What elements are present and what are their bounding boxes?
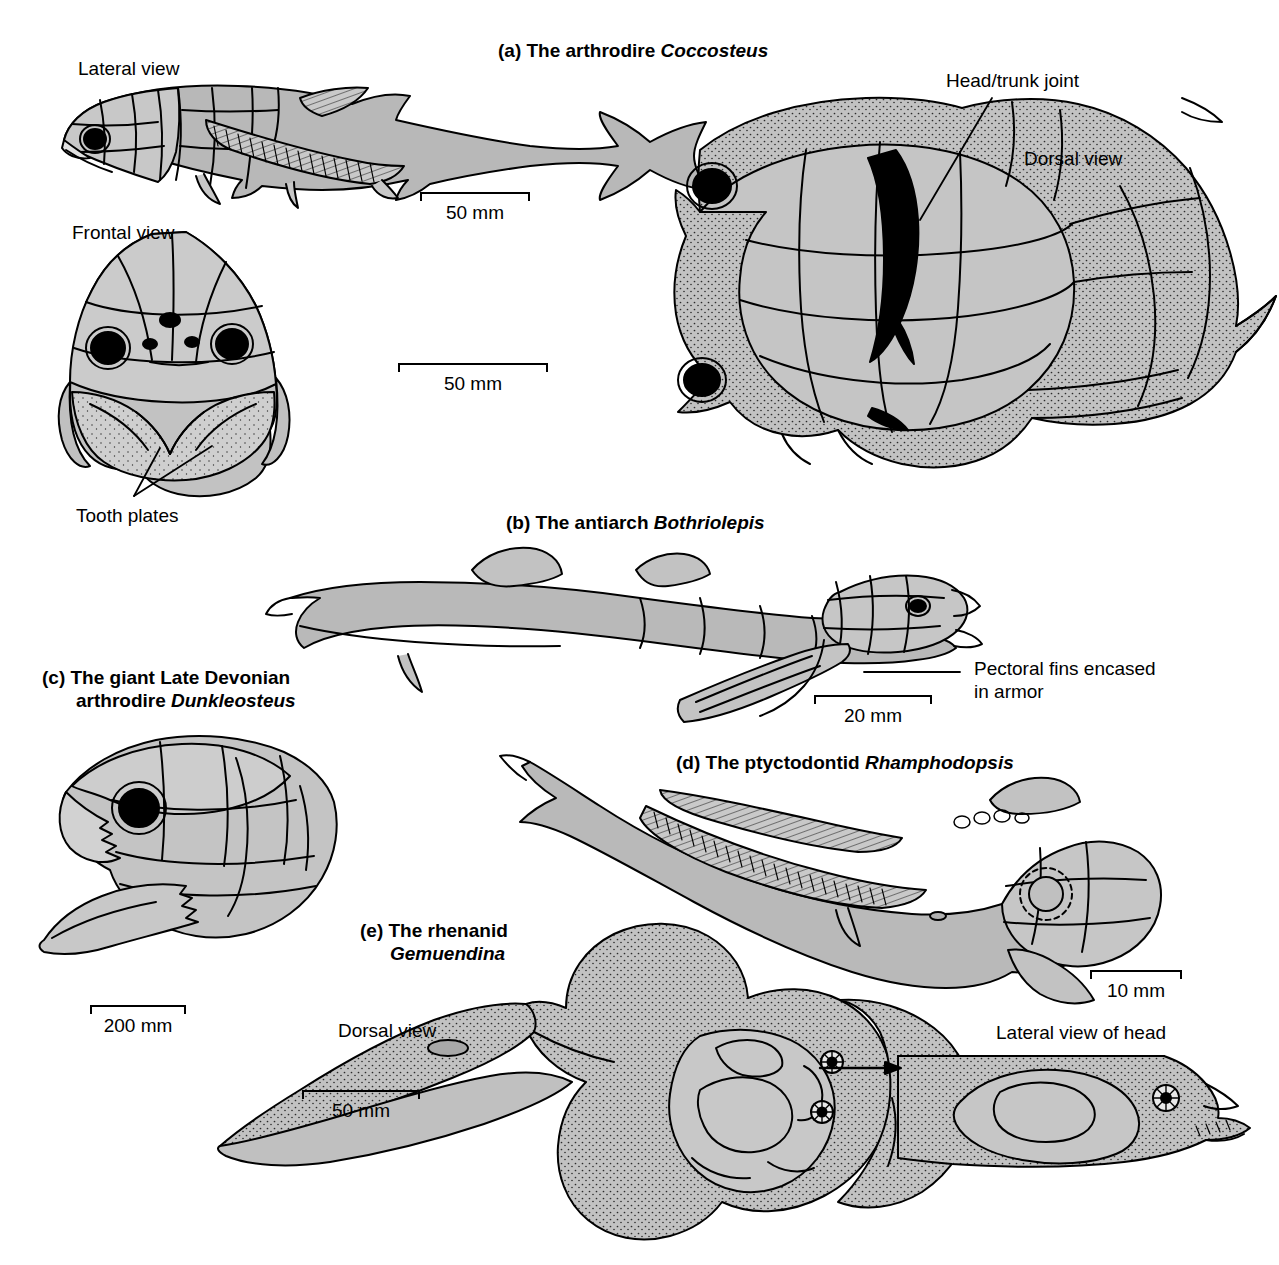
panel-e-taxon: Gemuendina [390, 943, 505, 964]
scalebar-e-bar [302, 1090, 420, 1099]
coccosteus-lateral-illustration [62, 86, 706, 208]
panel-c-title-line2: arthrodire Dunkleosteus [76, 690, 296, 712]
label-a-lateral-view: Lateral view [78, 58, 179, 80]
scalebar-a-dorsal: 50 mm [398, 363, 548, 395]
gemuendina-illustration [218, 924, 972, 1240]
panel-c-title-prefix: arthrodire [76, 690, 171, 711]
rhamphodopsis-illustration [500, 755, 1161, 1003]
scalebar-d-label: 10 mm [1090, 980, 1182, 1002]
panel-d-taxon: Rhamphodopsis [865, 752, 1014, 773]
figure-artwork [0, 0, 1279, 1265]
label-head-trunk-joint: Head/trunk joint [946, 70, 1079, 92]
panel-e-title-line1: (e) The rhenanid [360, 920, 508, 942]
scalebar-c-label: 200 mm [90, 1015, 186, 1037]
label-e-lateral-head: Lateral view of head [996, 1022, 1166, 1044]
scalebar-a-dorsal-label: 50 mm [398, 373, 548, 395]
label-pectoral-fins-line1: Pectoral fins encased [974, 658, 1156, 680]
coccosteus-dorsal-illustration [674, 98, 1276, 468]
annotation-leader-lines [134, 98, 992, 672]
dunkleosteus-illustration [40, 736, 337, 954]
scalebar-b: 20 mm [814, 695, 932, 727]
panel-a-title-prefix: (a) The arthrodire [498, 40, 661, 61]
scalebar-c: 200 mm [90, 1005, 186, 1037]
gemuendina-head-lateral-illustration [898, 1056, 1250, 1167]
scalebar-e: 50 mm [302, 1090, 420, 1122]
scalebar-a-lateral-bar [420, 192, 530, 201]
scalebar-d: 10 mm [1090, 970, 1182, 1002]
panel-d-title-prefix: (d) The ptyctodontid [676, 752, 865, 773]
label-pectoral-fins-line2: in armor [974, 681, 1044, 703]
panel-e-title-line2: Gemuendina [390, 943, 505, 965]
coccosteus-frontal-illustration [59, 232, 290, 496]
panel-b-title: (b) The antiarch Bothriolepis [506, 512, 765, 534]
scalebar-b-label: 20 mm [814, 705, 932, 727]
label-tooth-plates: Tooth plates [76, 505, 178, 527]
scalebar-a-lateral-label: 50 mm [420, 202, 530, 224]
panel-a-title: (a) The arthrodire Coccosteus [498, 40, 768, 62]
arrow-to-lateral-head [820, 1062, 901, 1074]
panel-b-taxon: Bothriolepis [654, 512, 765, 533]
panel-c-taxon: Dunkleosteus [171, 690, 296, 711]
panel-d-title: (d) The ptyctodontid Rhamphodopsis [676, 752, 1014, 774]
panel-c-title-line1: (c) The giant Late Devonian [42, 667, 290, 689]
label-a-frontal-view: Frontal view [72, 222, 174, 244]
scalebar-d-bar [1090, 970, 1182, 979]
panel-a-taxon: Coccosteus [661, 40, 769, 61]
placoderm-figure: (a) The arthrodire Coccosteus Lateral vi… [0, 0, 1279, 1265]
scalebar-b-bar [814, 695, 932, 704]
scalebar-c-bar [90, 1005, 186, 1014]
scalebar-a-lateral: 50 mm [420, 192, 530, 224]
label-a-dorsal-view: Dorsal view [1024, 148, 1122, 170]
panel-b-title-prefix: (b) The antiarch [506, 512, 654, 533]
scalebar-a-dorsal-bar [398, 363, 548, 372]
label-e-dorsal-view: Dorsal view [338, 1020, 436, 1042]
scalebar-e-label: 50 mm [302, 1100, 420, 1122]
